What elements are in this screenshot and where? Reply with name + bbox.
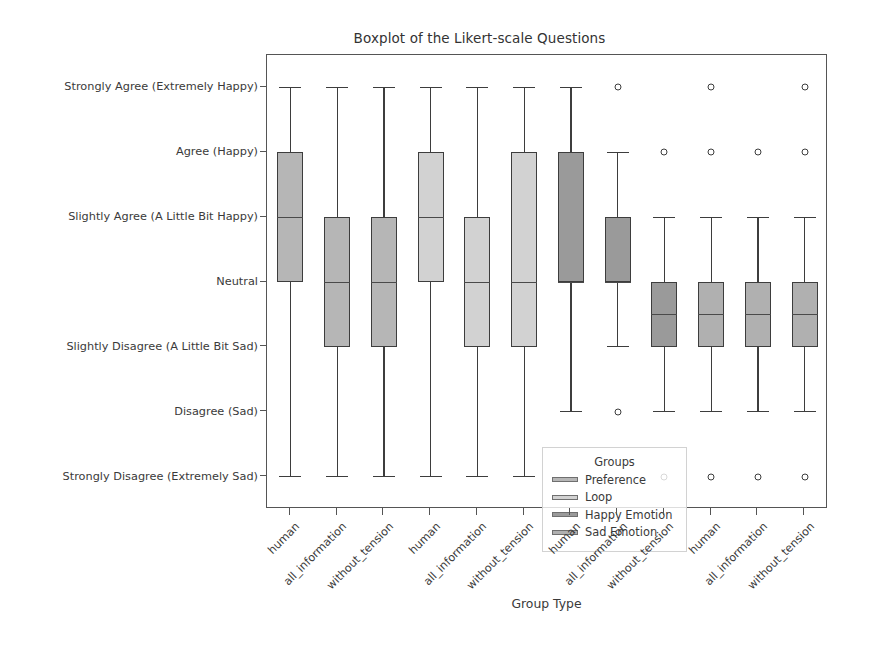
whisker-upper: [664, 217, 665, 282]
outlier-marker: [614, 408, 621, 415]
cap-upper: [607, 152, 629, 153]
cap-lower: [513, 476, 535, 477]
cap-lower: [747, 411, 769, 412]
x-tick-mark: [663, 508, 664, 515]
cap-lower: [560, 411, 582, 412]
legend-swatch: [552, 495, 578, 500]
plot-area: Groups PreferenceLoopHappy EmotionSad Em…: [266, 54, 827, 508]
outlier-marker: [708, 473, 715, 480]
cap-upper: [373, 87, 395, 88]
whisker-upper: [711, 217, 712, 282]
x-tick-mark: [523, 508, 524, 515]
median-line: [277, 217, 303, 218]
chart-title: Boxplot of the Likert-scale Questions: [0, 30, 875, 46]
legend-title: Groups: [543, 455, 686, 469]
whisker-upper: [290, 87, 291, 152]
cap-upper: [279, 87, 301, 88]
outlier-marker: [801, 149, 808, 156]
cap-lower: [279, 476, 301, 477]
legend-label: Preference: [585, 473, 646, 487]
x-tick-mark: [382, 508, 383, 515]
whisker-lower: [617, 282, 618, 347]
whisker-upper: [337, 87, 338, 217]
x-tick-mark: [429, 508, 430, 515]
whisker-lower: [757, 347, 758, 412]
whisker-upper: [617, 152, 618, 217]
whisker-lower: [337, 347, 338, 477]
x-tick-mark: [289, 508, 290, 515]
x-tick-mark: [710, 508, 711, 515]
outlier-marker: [661, 149, 668, 156]
median-line: [511, 282, 537, 283]
x-tick-mark: [803, 508, 804, 515]
legend-entry: Preference: [552, 473, 686, 487]
x-tick-mark: [336, 508, 337, 515]
cap-upper: [420, 87, 442, 88]
outlier-marker: [801, 84, 808, 91]
whisker-lower: [383, 347, 384, 477]
cap-lower: [466, 476, 488, 477]
median-line: [371, 282, 397, 283]
median-line: [558, 282, 584, 283]
box-iqr: [605, 217, 631, 282]
y-axis-tick-marks: [0, 54, 270, 508]
cap-upper: [794, 217, 816, 218]
cap-lower: [653, 411, 675, 412]
outlier-marker: [708, 84, 715, 91]
whisker-lower: [430, 282, 431, 477]
cap-upper: [747, 217, 769, 218]
whisker-upper: [804, 217, 805, 282]
whisker-lower: [524, 347, 525, 477]
boxplot-figure: Boxplot of the Likert-scale Questions St…: [0, 0, 875, 647]
legend-label: Loop: [585, 490, 612, 504]
whisker-upper: [430, 87, 431, 152]
whisker-upper: [383, 87, 384, 217]
whisker-lower: [570, 282, 571, 412]
cap-lower: [607, 346, 629, 347]
outlier-marker: [754, 149, 761, 156]
legend-entry: Loop: [552, 490, 686, 504]
cap-upper: [700, 217, 722, 218]
cap-upper: [466, 87, 488, 88]
median-line: [651, 314, 677, 315]
whisker-lower: [804, 347, 805, 412]
x-axis-title: Group Type: [266, 596, 827, 611]
median-line: [698, 314, 724, 315]
whisker-upper: [477, 87, 478, 217]
x-tick-mark: [756, 508, 757, 515]
outlier-marker: [708, 149, 715, 156]
median-line: [418, 217, 444, 218]
whisker-lower: [290, 282, 291, 477]
x-tick-mark: [569, 508, 570, 515]
cap-upper: [513, 87, 535, 88]
outlier-marker: [754, 473, 761, 480]
cap-lower: [794, 411, 816, 412]
median-line: [605, 282, 631, 283]
x-axis-tick-marks: [266, 508, 827, 518]
cap-upper: [653, 217, 675, 218]
median-line: [464, 282, 490, 283]
whisker-upper: [570, 87, 571, 152]
whisker-lower: [711, 347, 712, 412]
cap-lower: [700, 411, 722, 412]
cap-lower: [326, 476, 348, 477]
whisker-lower: [664, 347, 665, 412]
median-line: [745, 314, 771, 315]
cap-upper: [326, 87, 348, 88]
whisker-upper: [524, 87, 525, 152]
outlier-marker: [801, 473, 808, 480]
median-line: [324, 282, 350, 283]
box-iqr: [511, 152, 537, 347]
median-line: [792, 314, 818, 315]
x-tick-mark: [476, 508, 477, 515]
whisker-lower: [477, 347, 478, 477]
cap-lower: [373, 476, 395, 477]
box-iqr: [558, 152, 584, 282]
outlier-marker: [614, 84, 621, 91]
chart-title-text: Boxplot of the Likert-scale Questions: [354, 30, 606, 46]
cap-upper: [560, 87, 582, 88]
x-tick-mark: [616, 508, 617, 515]
cap-lower: [420, 476, 442, 477]
legend-swatch: [552, 477, 578, 482]
whisker-upper: [757, 217, 758, 282]
